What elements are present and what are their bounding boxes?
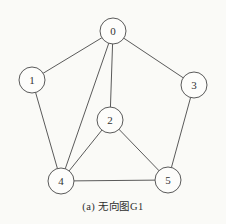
node-label-3: 3 [191, 79, 197, 91]
node-label-1: 1 [29, 74, 35, 86]
node-label-0: 0 [110, 25, 116, 37]
figure-caption: (a) 无向图G1 [0, 198, 226, 213]
edge-0-1 [32, 31, 113, 80]
edge-4-5 [61, 180, 168, 181]
node-label-4: 4 [58, 175, 64, 187]
edge-0-4 [61, 31, 113, 181]
node-label-2: 2 [107, 114, 113, 126]
figure-page: 012345 (a) 无向图G1 [0, 0, 226, 224]
node-label-5: 5 [165, 174, 171, 186]
undirected-graph-diagram: 012345 [0, 0, 226, 224]
edge-1-4 [32, 80, 61, 181]
edge-3-5 [168, 85, 194, 180]
edge-0-3 [113, 31, 194, 85]
